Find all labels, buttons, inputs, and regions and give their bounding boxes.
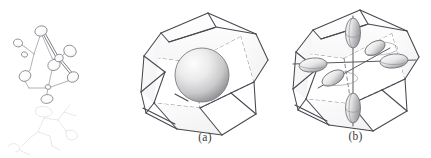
molecular-structure-drawing bbox=[0, 0, 130, 158]
atom-ellipsoid bbox=[17, 69, 32, 84]
caption-a: (a) bbox=[130, 131, 280, 143]
panel-b-cage-with-ellipsoids: (b) bbox=[280, 0, 431, 158]
atom-ellipsoid bbox=[13, 38, 24, 48]
caption-b: (b) bbox=[280, 130, 431, 142]
panel-a-cage-with-sphere: (a) bbox=[130, 0, 280, 158]
figure-root: (a) bbox=[0, 0, 431, 158]
central-sphere bbox=[175, 48, 229, 102]
atom-ellipsoid bbox=[65, 70, 80, 84]
ellipsoid-front bbox=[319, 66, 357, 89]
panel-molecular-structure bbox=[0, 0, 130, 158]
cage-a-right-face bbox=[241, 34, 268, 82]
molecule-ghost-structure bbox=[8, 105, 77, 155]
atom-ellipsoid bbox=[40, 94, 53, 104]
ellipsoid-bottom bbox=[346, 93, 361, 123]
atom-ellipsoid bbox=[21, 51, 29, 58]
atom-ellipsoid bbox=[62, 43, 79, 59]
ellipsoid-top bbox=[346, 18, 361, 48]
atom-ellipsoid bbox=[45, 84, 52, 90]
